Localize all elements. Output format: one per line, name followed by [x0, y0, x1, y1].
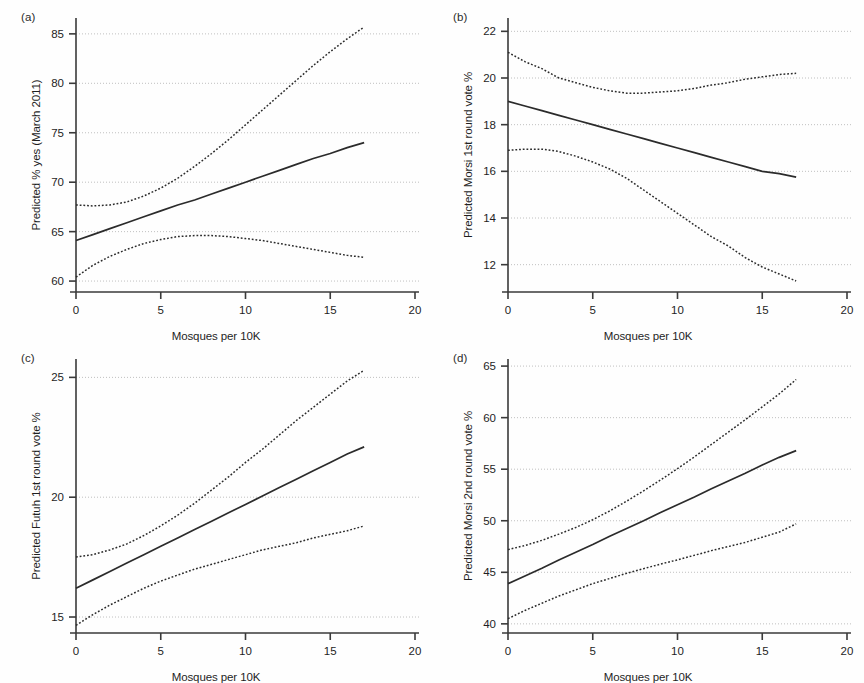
y-tick-label: 14: [483, 212, 496, 224]
x-tick-label: 0: [505, 645, 511, 657]
x-axis-label-c: Mosques per 10K: [0, 671, 432, 683]
x-tick-label: 0: [73, 304, 79, 316]
y-tick-label: 60: [483, 412, 496, 424]
y-tick-label: 20: [483, 72, 496, 84]
y-tick-label: 65: [483, 360, 496, 372]
y-tick-label: 70: [51, 176, 64, 188]
series-line-confidence-interval: [76, 526, 364, 625]
y-tick-label: 50: [483, 515, 496, 527]
x-tick-label: 20: [409, 304, 422, 316]
plot-area-a: 60657075808505101520: [0, 0, 432, 341]
chart-panel-b: (b) Predicted Morsi 1st round vote % 121…: [432, 0, 864, 341]
series-line-predicted: [76, 143, 364, 241]
x-tick-label: 5: [590, 304, 596, 316]
x-tick-label: 15: [756, 304, 769, 316]
x-tick-label: 10: [671, 645, 684, 657]
x-tick-label: 10: [239, 304, 252, 316]
plot-area-c: 15202505101520: [0, 341, 432, 682]
x-tick-label: 0: [505, 304, 511, 316]
x-tick-label: 15: [324, 304, 337, 316]
y-tick-label: 65: [51, 226, 64, 238]
y-tick-label: 15: [51, 611, 64, 623]
chart-panel-d: (d) Predicted Morsi 2nd round vote % 404…: [432, 341, 864, 682]
y-tick-label: 18: [483, 119, 496, 131]
x-tick-label: 15: [756, 645, 769, 657]
x-tick-label: 0: [73, 645, 79, 657]
series-line-predicted: [508, 451, 796, 584]
y-tick-label: 75: [51, 127, 64, 139]
y-tick-label: 12: [483, 259, 496, 271]
x-tick-label: 15: [324, 645, 337, 657]
series-line-confidence-interval: [76, 236, 364, 278]
series-line-predicted: [76, 447, 364, 588]
x-tick-label: 10: [239, 645, 252, 657]
x-axis-label-d: Mosques per 10K: [432, 671, 864, 683]
x-tick-label: 20: [841, 645, 854, 657]
chart-panel-a: (a) Predicted % yes (March 2011) 6065707…: [0, 0, 432, 341]
plot-area-b: 12141618202205101520: [432, 0, 864, 341]
series-line-confidence-interval: [76, 27, 364, 206]
x-tick-label: 20: [841, 304, 854, 316]
x-tick-label: 20: [409, 645, 422, 657]
x-tick-label: 10: [671, 304, 684, 316]
y-tick-label: 60: [51, 275, 64, 287]
y-tick-label: 80: [51, 77, 64, 89]
series-line-confidence-interval: [508, 380, 796, 550]
series-line-confidence-interval: [508, 524, 796, 619]
series-line-predicted: [508, 101, 796, 177]
chart-panel-c: (c) Predicted Futuh 1st round vote % 152…: [0, 341, 432, 682]
y-tick-label: 40: [483, 618, 496, 630]
y-tick-label: 55: [483, 463, 496, 475]
figure-multi-panel-chart: (a) Predicted % yes (March 2011) 6065707…: [0, 0, 864, 683]
y-tick-label: 25: [51, 371, 64, 383]
x-tick-label: 5: [158, 304, 164, 316]
y-tick-label: 22: [483, 25, 496, 37]
y-tick-label: 16: [483, 165, 496, 177]
x-tick-label: 5: [590, 645, 596, 657]
y-tick-label: 85: [51, 28, 64, 40]
y-tick-label: 45: [483, 566, 496, 578]
plot-area-d: 40455055606505101520: [432, 341, 864, 682]
series-line-confidence-interval: [508, 52, 796, 93]
x-tick-label: 5: [158, 645, 164, 657]
y-tick-label: 20: [51, 491, 64, 503]
series-line-confidence-interval: [76, 370, 364, 557]
